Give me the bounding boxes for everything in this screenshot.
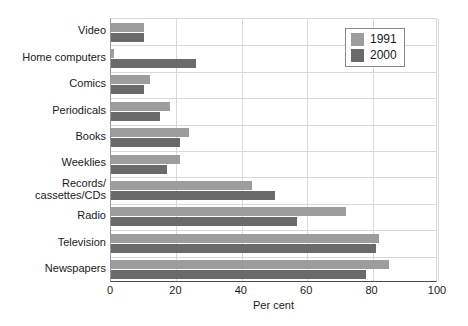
bar-group — [111, 257, 436, 283]
bar-2000 — [111, 33, 144, 42]
bar-1991 — [111, 234, 379, 243]
bar-group — [111, 151, 436, 177]
gridline-vertical — [438, 19, 439, 281]
bar-1991 — [111, 207, 346, 216]
bar-1991 — [111, 155, 180, 164]
bar-1991 — [111, 75, 150, 84]
bar-1991 — [111, 49, 114, 58]
category-label: Video — [0, 18, 106, 44]
legend-item: 2000 — [351, 49, 397, 62]
bar-1991 — [111, 260, 389, 269]
bar-2000 — [111, 270, 366, 279]
category-axis-labels: VideoHome computersComicsPeriodicalsBook… — [0, 18, 106, 282]
category-label: Periodicals — [0, 97, 106, 123]
bar-1991 — [111, 181, 252, 190]
x-tick-label: 100 — [428, 284, 446, 296]
category-label: Weeklies — [0, 150, 106, 176]
category-label: Radio — [0, 203, 106, 229]
bar-2000 — [111, 59, 196, 68]
bar-1991 — [111, 128, 189, 137]
category-label: Records/cassettes/CDs — [0, 176, 106, 202]
bar-group — [111, 125, 436, 151]
bar-2000 — [111, 138, 180, 147]
bar-2000 — [111, 165, 167, 174]
x-tick-label: 80 — [365, 284, 377, 296]
bar-1991 — [111, 102, 170, 111]
x-tick-label: 40 — [235, 284, 247, 296]
x-tick-label: 0 — [107, 284, 113, 296]
legend-label: 1991 — [370, 33, 397, 46]
x-axis-tick-labels: 020406080100 — [110, 284, 437, 300]
x-tick-label: 20 — [169, 284, 181, 296]
category-label: Newspapers — [0, 256, 106, 282]
bar-group — [111, 98, 436, 124]
legend-swatch-icon — [351, 33, 364, 46]
legend-label: 2000 — [370, 49, 397, 62]
x-axis-title: Per cent — [110, 299, 437, 311]
x-tick-label: 60 — [300, 284, 312, 296]
bar-group — [111, 72, 436, 98]
bar-2000 — [111, 244, 376, 253]
bar-chart: VideoHome computersComicsPeriodicalsBook… — [0, 0, 468, 326]
category-label: Home computers — [0, 44, 106, 70]
bar-2000 — [111, 217, 297, 226]
legend-swatch-icon — [351, 49, 364, 62]
bar-group — [111, 204, 436, 230]
legend-item: 1991 — [351, 33, 397, 46]
category-label: Television — [0, 229, 106, 255]
bar-group — [111, 177, 436, 203]
category-label: Comics — [0, 71, 106, 97]
bar-2000 — [111, 85, 144, 94]
category-label: Books — [0, 124, 106, 150]
bar-2000 — [111, 191, 275, 200]
bar-2000 — [111, 112, 160, 121]
chart-legend: 19912000 — [345, 28, 405, 67]
bar-group — [111, 230, 436, 256]
bar-1991 — [111, 23, 144, 32]
